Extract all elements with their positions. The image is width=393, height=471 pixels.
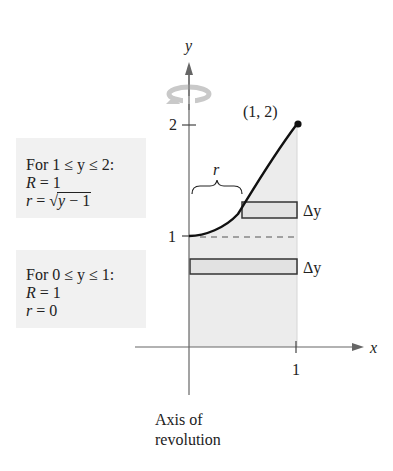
lower-strip: [190, 259, 297, 274]
y-tick-label-2: 2: [169, 117, 177, 133]
r-eq: = 0: [32, 302, 57, 319]
R-eq: = 1: [36, 174, 61, 191]
radicand: y − 1: [57, 192, 91, 209]
caption-line-2: revolution: [155, 430, 221, 450]
upper-strip: [242, 202, 297, 218]
shaded-region: [189, 124, 297, 347]
x-axis-label: x: [370, 340, 377, 356]
endpoint-label: (1, 2): [243, 104, 278, 120]
axis-of-revolution-caption: Axis of revolution: [155, 410, 221, 450]
condition-lower: For 0 ≤ y ≤ 1:: [26, 266, 138, 284]
upper-strip-label: Δy: [303, 203, 321, 219]
R-var: R: [26, 284, 36, 301]
lower-strip-label: Δy: [303, 260, 321, 276]
R-var: R: [26, 174, 36, 191]
x-axis-arrow-icon: [352, 343, 364, 351]
R-equation-lower: R = 1: [26, 284, 138, 302]
r-equation-lower: r = 0: [26, 302, 138, 320]
R-eq: = 1: [36, 284, 61, 301]
r-brace: [192, 180, 242, 194]
R-equation-upper: R = 1: [26, 174, 138, 192]
caption-line-1: Axis of: [155, 410, 221, 430]
graph-canvas: [0, 0, 393, 471]
y-axis-label: y: [185, 38, 192, 54]
condition-upper: For 1 ≤ y ≤ 2:: [26, 156, 138, 174]
endpoint-dot: [294, 120, 301, 127]
x-tick-label-1: 1: [292, 362, 300, 378]
y-tick-label-1: 1: [168, 229, 176, 245]
radicand-rest: − 1: [65, 192, 90, 209]
r-eq: =: [32, 192, 49, 209]
info-box-lower: For 0 ≤ y ≤ 1: R = 1 r = 0: [16, 250, 146, 328]
brace-label-r: r: [213, 162, 219, 178]
info-box-upper: For 1 ≤ y ≤ 2: R = 1 r = √y − 1: [16, 138, 146, 218]
rotation-arrow-icon: [166, 72, 209, 110]
r-equation-upper: r = √y − 1: [26, 192, 138, 210]
